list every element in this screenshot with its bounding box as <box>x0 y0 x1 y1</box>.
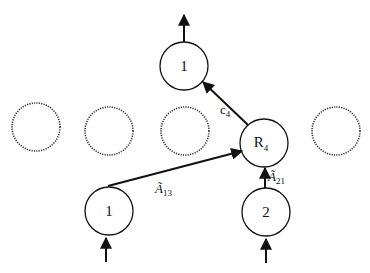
input-node-2: 2 <box>242 188 290 236</box>
edge-c4-label: c4 <box>220 102 231 119</box>
input-node-1: 1 <box>85 187 133 235</box>
placeholder-node <box>12 103 60 151</box>
input-node-2-label: 2 <box>262 204 270 220</box>
placeholder-nodes <box>12 103 360 155</box>
edge-a21-label: Ã21 <box>267 169 285 186</box>
router-node: R4 <box>240 119 288 167</box>
diagram-canvas: 1 R4 c4 1 2 Ã13 Ã21 <box>0 0 370 273</box>
placeholder-node <box>161 107 209 155</box>
output-node-label: 1 <box>180 58 188 74</box>
placeholder-node <box>85 107 133 155</box>
output-node: 1 <box>160 42 208 90</box>
edge-a13-label: Ã13 <box>154 181 172 198</box>
input-node-1-label: 1 <box>105 203 113 219</box>
edge-a13 <box>108 151 242 186</box>
placeholder-node <box>312 107 360 155</box>
